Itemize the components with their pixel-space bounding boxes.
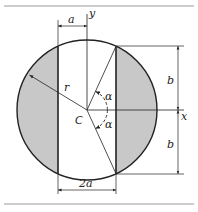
label-2a: 2a — [78, 177, 93, 190]
label-b-upper: b — [167, 74, 174, 87]
label-alpha-upper: α — [105, 90, 113, 103]
label-radius: r — [64, 81, 70, 94]
label-alpha-lower: α — [105, 118, 113, 131]
label-y-axis: y — [88, 7, 96, 20]
label-a-top: a — [68, 13, 75, 26]
label-b-lower: b — [167, 138, 174, 151]
diagram-canvas: a y r C α α b x b 2a — [0, 0, 198, 212]
label-x-axis: x — [181, 110, 188, 123]
label-center: C — [75, 114, 83, 127]
